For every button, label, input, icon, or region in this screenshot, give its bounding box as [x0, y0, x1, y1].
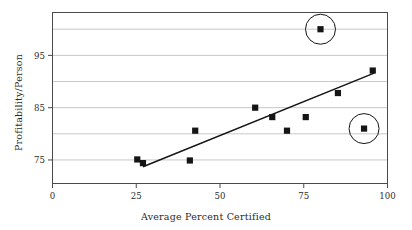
xtick-label-75: 75 [298, 191, 309, 201]
x-axis-ticks: 0255075100 [50, 184, 396, 201]
data-point-2 [187, 157, 193, 163]
data-point-4 [252, 105, 258, 111]
data-point-7 [303, 114, 309, 120]
data-point-6 [284, 128, 290, 134]
plot-frame [53, 13, 388, 184]
xtick-label-0: 0 [50, 191, 55, 201]
y-axis-ticks: 758595 [34, 51, 52, 166]
annotation-circles-group [306, 14, 380, 143]
data-point-1 [140, 160, 146, 166]
data-point-3 [192, 128, 198, 134]
scatter-chart: 0255075100 758595 Average Percent Certif… [0, 0, 412, 230]
ytick-label-85: 85 [34, 103, 45, 113]
xtick-label-25: 25 [131, 191, 142, 201]
plot-canvas: 0255075100 758595 [0, 0, 412, 230]
trendline-group [143, 73, 374, 167]
data-point-10 [361, 125, 367, 131]
data-point-8 [317, 26, 323, 32]
data-point-5 [269, 114, 275, 120]
data-points-group [134, 26, 376, 166]
plot-frame-group [53, 13, 388, 184]
data-point-0 [134, 156, 140, 162]
x-axis-title: Average Percent Certified [0, 211, 412, 222]
ytick-label-75: 75 [34, 155, 45, 165]
xtick-label-100: 100 [379, 191, 395, 201]
data-point-9 [335, 90, 341, 96]
ytick-label-95: 95 [34, 51, 45, 61]
data-point-11 [370, 67, 376, 73]
xtick-label-50: 50 [215, 191, 226, 201]
regression-line [143, 73, 374, 167]
y-axis-title: Profitability/Person [13, 33, 24, 173]
